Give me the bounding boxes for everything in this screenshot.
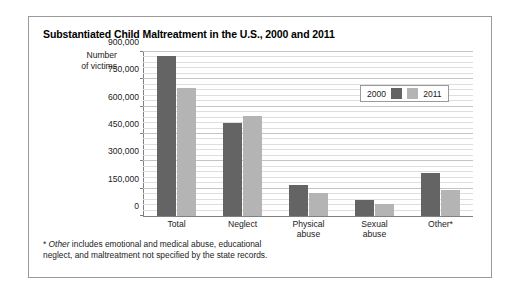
y-axis-tick-label: 150,000 <box>108 174 139 184</box>
footnote-line-2: neglect, and maltreatment not specified … <box>43 250 267 260</box>
footnote-marker: * <box>43 239 46 249</box>
footnote-line-1: includes emotional and medical abuse, ed… <box>70 239 262 249</box>
bar-2011[interactable] <box>441 190 460 216</box>
legend-label-2011: 2011 <box>423 89 441 99</box>
bar-2011[interactable] <box>177 88 196 216</box>
plot-area: 900,000750,000600,000450,000300,000150,0… <box>143 52 473 217</box>
bar-group: Other* <box>421 52 460 216</box>
figure-frame: Substantiated Child Maltreatment in the … <box>28 16 492 278</box>
y-axis-tick-label: 900,000 <box>108 37 139 47</box>
y-axis-tick-label: 300,000 <box>108 146 139 156</box>
page-title: Substantiated Child Maltreatment in the … <box>43 28 335 40</box>
x-axis-category-label: Other* <box>398 219 484 229</box>
bar-group: Physicalabuse <box>289 52 328 216</box>
bar-group: Neglect <box>223 52 262 216</box>
bar-2000[interactable] <box>157 56 176 216</box>
bar-2000[interactable] <box>421 173 440 216</box>
bar-2011[interactable] <box>375 204 394 216</box>
chart-legend: 2000 2011 <box>360 85 449 102</box>
bar-2000[interactable] <box>289 185 308 216</box>
bar-2011[interactable] <box>309 193 328 216</box>
y-axis-tick-label: 0 <box>134 201 139 211</box>
bars-layer: TotalNeglectPhysicalabuseSexualabuseOthe… <box>143 52 473 217</box>
bar-group: Total <box>157 52 196 216</box>
y-axis-tick-label: 450,000 <box>108 119 139 129</box>
y-axis-tick-label: 600,000 <box>108 92 139 102</box>
y-axis-tick-label: 750,000 <box>108 64 139 74</box>
bar-2000[interactable] <box>355 200 374 216</box>
footnote: * Other includes emotional and medical a… <box>43 239 463 262</box>
bar-group: Sexualabuse <box>355 52 394 216</box>
legend-swatch-2000 <box>391 88 402 99</box>
y-axis-caption-line-1: Number <box>51 50 117 61</box>
bar-2011[interactable] <box>243 116 262 216</box>
legend-swatch-2011 <box>407 88 418 99</box>
legend-label-2000: 2000 <box>367 89 386 99</box>
bar-2000[interactable] <box>223 123 242 216</box>
footnote-italic-term: Other <box>49 239 70 249</box>
